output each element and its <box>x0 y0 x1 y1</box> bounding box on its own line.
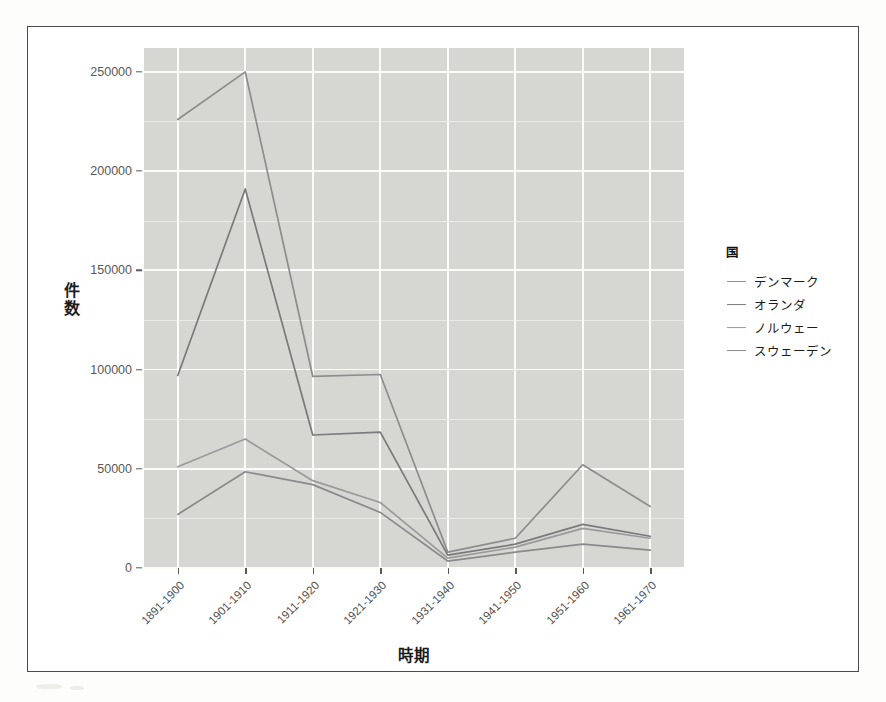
y-axis-tick-label: 250000 <box>90 65 132 79</box>
x-axis-tick-mark <box>583 568 584 574</box>
y-axis-tick-mark <box>136 468 142 469</box>
page-background: 050000100000150000200000250000 件 数 1891-… <box>0 0 886 702</box>
x-axis-tick-mark <box>245 568 246 574</box>
x-axis-tick-label: 1951-1960 <box>540 579 591 630</box>
plot-panel <box>144 48 684 568</box>
x-axis-tick-mark <box>178 568 179 574</box>
legend-key-line-icon <box>726 321 747 335</box>
figure-frame: 050000100000150000200000250000 件 数 1891-… <box>27 26 859 672</box>
x-axis-tick-label: 1901-1910 <box>203 579 254 630</box>
legend-item-label: スウェーデン <box>754 341 832 360</box>
y-axis-title: 件 数 <box>58 282 86 318</box>
series-line <box>178 472 651 561</box>
x-axis-tick-mark <box>313 568 314 574</box>
y-axis-tick-label: 0 <box>125 561 132 575</box>
x-axis-tick-mark <box>650 568 651 574</box>
y-axis-title-char-1: 件 <box>58 282 86 300</box>
y-axis-tick-label: 200000 <box>90 164 132 178</box>
legend-item-label: オランダ <box>754 295 806 314</box>
x-axis-tick-label: 1941-1950 <box>473 579 524 630</box>
x-axis-tick-label: 1961-1970 <box>608 579 659 630</box>
series-line <box>178 72 651 552</box>
y-axis-tick-label: 150000 <box>90 263 132 277</box>
line-chart: 050000100000150000200000250000 件 数 1891-… <box>28 27 860 673</box>
y-axis-tick-mark <box>136 270 142 271</box>
legend: 国 デンマークオランダノルウェースウェーデン <box>726 242 854 362</box>
legend-key-line-icon <box>726 298 747 312</box>
legend-item-label: デンマーク <box>754 272 819 291</box>
x-axis-tick-label: 1891-1900 <box>135 579 186 630</box>
scan-artifact <box>36 684 62 689</box>
series-layer <box>144 48 684 568</box>
y-axis-tick-mark <box>136 369 142 370</box>
legend-items: デンマークオランダノルウェースウェーデン <box>726 270 854 362</box>
legend-title: 国 <box>726 242 854 261</box>
x-axis-tick-label: 1931-1940 <box>405 579 456 630</box>
x-axis-tick-mark <box>380 568 381 574</box>
series-line <box>178 189 651 555</box>
legend-key-line-icon <box>726 344 747 358</box>
y-axis-tick-mark <box>136 71 142 72</box>
legend-item: スウェーデン <box>726 339 854 362</box>
y-axis-tick-mark <box>136 170 142 171</box>
legend-item-label: ノルウェー <box>754 318 819 337</box>
x-axis-tick-label: 1921-1930 <box>338 579 389 630</box>
y-axis-tick-label: 50000 <box>97 462 132 476</box>
x-axis-title: 時期 <box>144 643 684 665</box>
legend-key-line-icon <box>726 275 747 289</box>
legend-item: デンマーク <box>726 270 854 293</box>
legend-item: ノルウェー <box>726 316 854 339</box>
y-axis-tick-mark <box>136 567 142 568</box>
x-axis-tick-label: 1911-1920 <box>270 579 321 630</box>
y-axis-title-char-2: 数 <box>58 300 86 318</box>
x-axis-tick-mark <box>515 568 516 574</box>
y-axis-tick-label: 100000 <box>90 363 132 377</box>
series-line <box>178 439 651 558</box>
legend-item: オランダ <box>726 293 854 316</box>
scan-artifact <box>70 686 84 690</box>
x-axis-tick-mark <box>448 568 449 574</box>
